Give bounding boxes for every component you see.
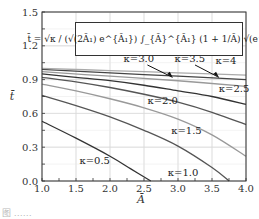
y-tick-label: 0.6 <box>22 108 38 119</box>
y-axis-label: t̄ <box>10 90 15 103</box>
x-tick-label: 3.5 <box>204 183 220 194</box>
x-tick-label: 1.5 <box>68 183 84 194</box>
curve-label: κ=0.5 <box>79 155 110 166</box>
x-tick-label: 3.0 <box>170 183 186 194</box>
curve-label: κ=1.0 <box>168 167 199 178</box>
formula-text: t̄ = √κ / (√(2Ā₁) e^{Ā₁}) ∫_{Ā}^{Ā₁} (1 … <box>27 34 259 44</box>
formula-box: t̄ = √κ / (√(2Ā₁) e^{Ā₁}) ∫_{Ā}^{Ā₁} (1 … <box>75 22 243 56</box>
x-axis-label: Ā <box>136 193 145 206</box>
arrow-k3-5 <box>195 65 219 77</box>
y-tick-label: 1.5 <box>22 7 38 18</box>
x-tick-label: 2.0 <box>102 183 118 194</box>
y-tick-label: 0.0 <box>22 176 38 187</box>
figure-caption: 图 …… <box>2 206 32 219</box>
curve-label: κ=4 <box>215 55 236 66</box>
y-tick-label: 0.3 <box>22 142 38 153</box>
curve-label: κ=1.5 <box>171 125 202 136</box>
curve-label: κ=2.5 <box>219 83 250 94</box>
x-tick-label: 4.0 <box>238 183 254 194</box>
curve-label: κ=2.0 <box>147 95 178 106</box>
y-tick-label: 0.9 <box>22 74 38 85</box>
